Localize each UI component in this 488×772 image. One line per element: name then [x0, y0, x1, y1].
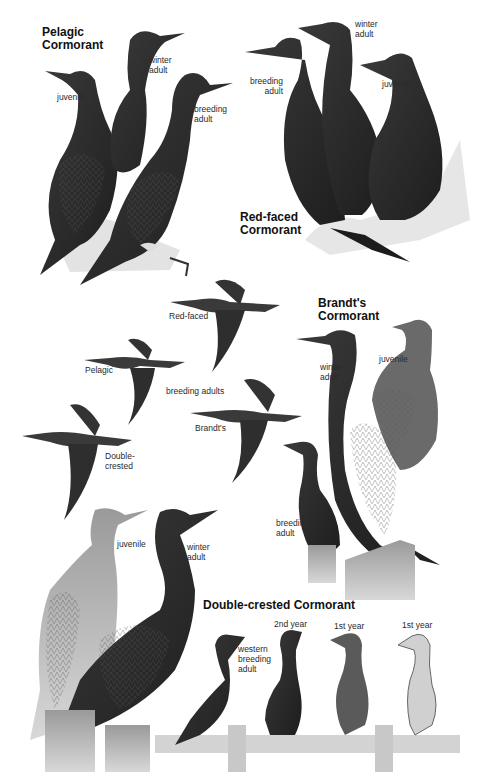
label-doublecrested-western-breeding-adult: western breeding adult — [238, 644, 271, 674]
species-title-brandts: Brandt's Cormorant — [318, 297, 379, 323]
label-brandts-winter-adult: winter adult — [320, 362, 343, 382]
label-flight-brandts: Brandt's — [195, 423, 226, 433]
label-redfaced-breeding-adult: breeding adult — [240, 76, 283, 96]
doublecrested-1st-year-bird-a — [330, 633, 369, 735]
label-flight-pelagic: Pelagic — [85, 365, 113, 375]
species-title-redfaced: Red-faced Cormorant — [240, 211, 301, 237]
brandts-posts — [308, 540, 415, 600]
label-pelagic-winter-adult: winter adult — [149, 55, 172, 75]
label-brandts-juvenile: juvenile — [379, 354, 408, 364]
label-redfaced-winter-adult: winter adult — [355, 19, 378, 39]
label-doublecrested-juvenile: juvenile — [117, 539, 146, 549]
label-flight-caption: breeding adults — [166, 386, 224, 396]
label-doublecrested-1st-year-a: 1st year — [334, 621, 364, 631]
label-doublecrested-winter-adult: winter adult — [187, 542, 210, 562]
label-flight-doublecrested: Double- crested — [105, 451, 135, 471]
label-doublecrested-2nd-year: 2nd year — [274, 619, 307, 629]
label-pelagic-breeding-adult: breeding adult — [194, 104, 227, 124]
doublecrested-1st-year-bird-b — [398, 634, 436, 735]
label-pelagic-juvenile: juvenile — [57, 92, 86, 102]
label-doublecrested-1st-year-b: 1st year — [402, 620, 432, 630]
label-flight-redfaced: Red-faced — [169, 311, 208, 321]
field-guide-plate: Pelagic Cormorant juvenile winter adult … — [0, 0, 488, 772]
flight-redfaced-bird — [170, 280, 280, 372]
label-brandts-breeding-adult: breeding adult — [276, 518, 309, 538]
species-title-pelagic: Pelagic Cormorant — [42, 26, 103, 52]
flight-pelagic-bird — [84, 339, 185, 425]
species-title-doublecrested: Double-crested Cormorant — [203, 599, 355, 612]
label-redfaced-juvenile: juvenile — [382, 79, 411, 89]
